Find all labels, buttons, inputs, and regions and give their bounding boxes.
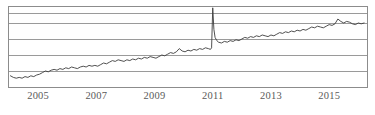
x-tick-2015: 2015 [318, 90, 340, 101]
x-tick-2005: 2005 [27, 90, 49, 101]
x-tick-2009: 2009 [144, 90, 166, 101]
x-tick-2011: 2011 [202, 90, 223, 101]
x-tick-2013: 2013 [260, 90, 282, 101]
x-tick-2007: 2007 [85, 90, 107, 101]
time-series-chart: 200520072009201120132015 [0, 0, 375, 115]
